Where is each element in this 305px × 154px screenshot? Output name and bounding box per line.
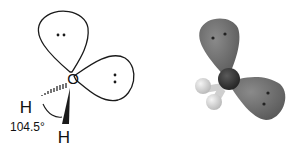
shaded-3d-model <box>195 18 285 120</box>
hydrogen-label-bottom: H <box>58 128 70 147</box>
bond-angle-label: 104.5° <box>10 120 45 134</box>
line-drawing: O H H 104.5° <box>10 11 134 147</box>
oxygen-label: O <box>67 70 79 87</box>
lone-pair-dots-top <box>57 34 66 37</box>
lone-pair-lobe-right <box>74 56 134 101</box>
water-molecule-diagram: O H H 104.5° <box>0 0 305 154</box>
wedge-bond <box>62 88 70 124</box>
hydrogen-atom-3d-left <box>195 78 211 94</box>
lone-pair-dots-right <box>114 74 117 84</box>
lone-pair-lobe-top <box>38 11 88 72</box>
oxygen-atom-3d <box>218 68 240 90</box>
hydrogen-label-left: H <box>20 98 32 117</box>
hydrogen-atom-3d-bottom <box>206 94 222 110</box>
bond-angle-arc <box>43 104 62 117</box>
hashed-bond <box>42 83 66 96</box>
